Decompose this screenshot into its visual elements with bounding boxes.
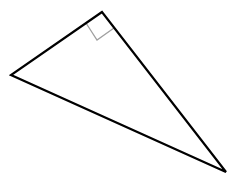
triangle <box>11 12 226 172</box>
triangle-diagram <box>0 0 227 180</box>
right-angle-marker <box>86 23 114 40</box>
